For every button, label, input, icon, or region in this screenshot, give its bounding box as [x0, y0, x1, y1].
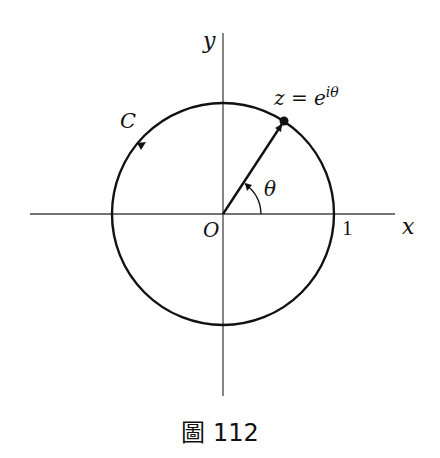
origin-label: O: [203, 218, 219, 242]
unit-label: 1: [342, 216, 353, 240]
y-axis-label: y: [202, 28, 216, 53]
point-z: [280, 117, 289, 126]
figure-caption: 圖 112: [0, 413, 440, 448]
circle-direction-arrow-icon: [137, 142, 146, 150]
point-label: z = eiθ: [273, 84, 339, 110]
x-axis-label: x: [402, 214, 415, 239]
point-label-exponent: iθ: [326, 84, 339, 100]
point-label-base: z = e: [273, 86, 326, 110]
angle-label-theta: θ: [264, 177, 276, 201]
unit-circle-diagram: y x O C θ 1 z = eiθ: [0, 0, 440, 458]
curve-label-c: C: [120, 109, 136, 133]
